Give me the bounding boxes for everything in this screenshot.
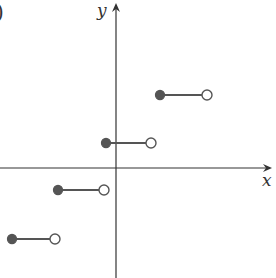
closed-endpoint-dot	[102, 139, 111, 148]
closed-endpoint-dot	[54, 186, 63, 195]
closed-endpoint-dot	[156, 91, 165, 100]
open-endpoint-circle	[50, 234, 60, 244]
plot-area	[0, 0, 276, 278]
open-endpoint-circle	[202, 90, 212, 100]
open-endpoint-circle	[146, 138, 156, 148]
closed-endpoint-dot	[8, 235, 17, 244]
open-endpoint-circle	[99, 185, 109, 195]
step-function-graph: ) y x	[0, 0, 276, 278]
